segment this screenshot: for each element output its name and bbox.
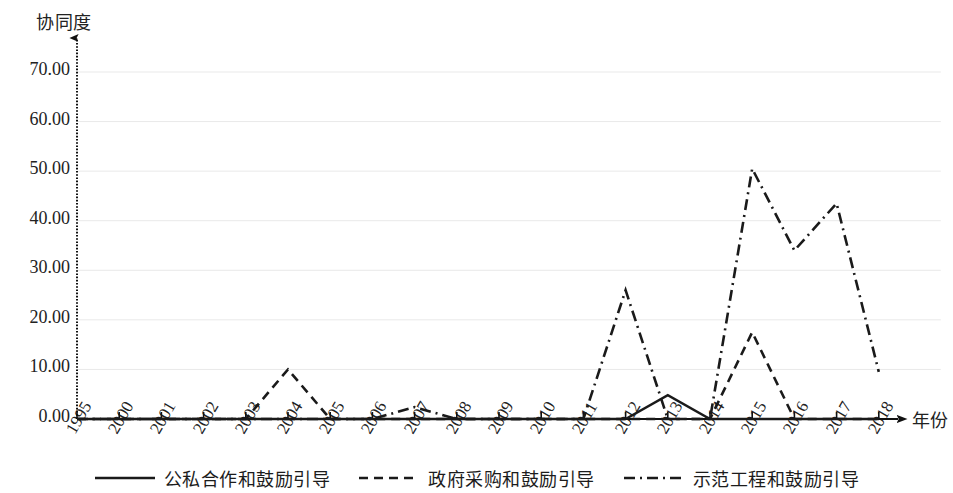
plot-area [0, 0, 953, 493]
data-series-layer [77, 169, 879, 419]
synergy-line-chart: 协同度 年份 0.0010.0020.0030.0040.0050.0060.0… [0, 0, 953, 493]
legend-item-1[interactable]: 公私合作和鼓励引导 [94, 465, 331, 491]
series-line-3 [77, 169, 879, 419]
legend-label: 示范工程和鼓励引导 [693, 465, 860, 491]
legend-label: 公私合作和鼓励引导 [164, 465, 331, 491]
legend-line-swatch-solid [94, 472, 156, 484]
legend-item-2[interactable]: 政府采购和鼓励引导 [358, 465, 595, 491]
series-line-1 [77, 395, 879, 419]
axis-lines [77, 38, 898, 419]
legend-label: 政府采购和鼓励引导 [428, 465, 595, 491]
chart-legend: 公私合作和鼓励引导政府采购和鼓励引导示范工程和鼓励引导 [0, 462, 953, 493]
gridlines [77, 72, 941, 369]
legend-line-swatch-dashdot [623, 472, 685, 484]
legend-line-swatch-dashed [358, 472, 420, 484]
series-line-2 [77, 332, 879, 419]
legend-item-3[interactable]: 示范工程和鼓励引导 [623, 465, 860, 491]
